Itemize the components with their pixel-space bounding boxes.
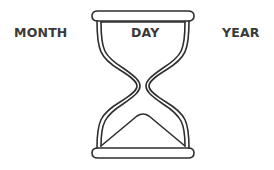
month-label: MONTH <box>14 27 68 40</box>
day-label: DAY <box>131 27 160 40</box>
year-label: YEAR <box>222 27 260 40</box>
